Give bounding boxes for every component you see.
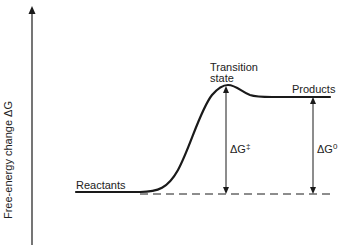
standard-energy-arrow — [310, 97, 316, 194]
products-label: Products — [292, 83, 335, 95]
reactants-label: Reactants — [76, 179, 126, 191]
transition-state-label-line2: state — [210, 72, 234, 84]
reaction-curve — [76, 85, 330, 192]
y-axis-arrow-icon — [29, 6, 36, 14]
double-dagger-superscript: ‡ — [246, 142, 250, 151]
activation-energy-arrow — [223, 86, 229, 194]
standard-energy-label: ΔG0 — [317, 141, 337, 155]
y-axis — [29, 6, 36, 245]
standard-energy-symbol: ΔG — [317, 143, 333, 155]
activation-energy-label: ΔG‡ — [230, 141, 250, 155]
y-axis-label: Free-energy change ΔG — [2, 80, 16, 240]
activation-energy-symbol: ΔG — [230, 143, 246, 155]
energy-diagram-canvas — [0, 0, 360, 245]
zero-superscript: 0 — [333, 142, 337, 151]
